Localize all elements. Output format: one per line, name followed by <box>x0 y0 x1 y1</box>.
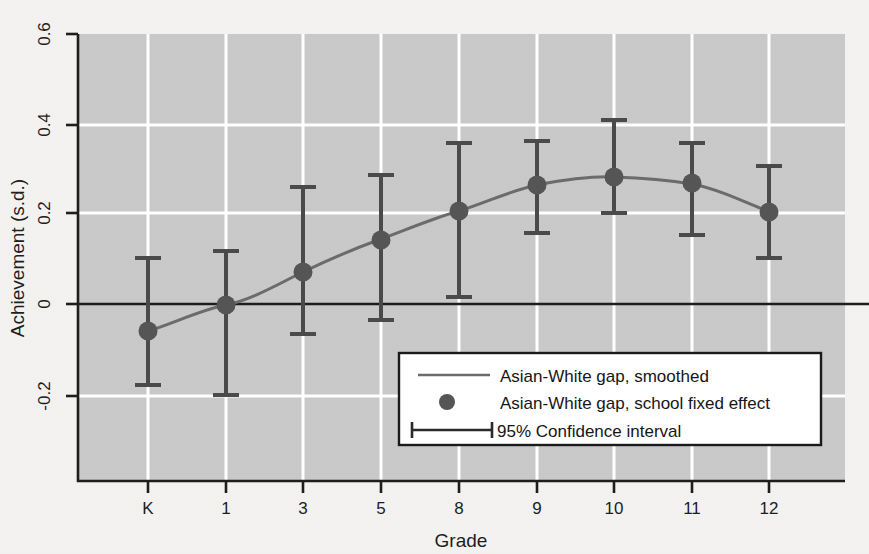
data-point <box>528 176 547 195</box>
data-point <box>139 322 158 341</box>
legend-item-label: 95% Confidence interval <box>497 422 681 441</box>
x-tick-label: 3 <box>298 499 307 518</box>
x-axis-ticks <box>148 481 769 493</box>
x-tick-label: 1 <box>221 499 230 518</box>
data-point <box>760 203 779 222</box>
x-tick-label: 10 <box>605 499 624 518</box>
x-tick-label: 9 <box>532 499 541 518</box>
data-point <box>605 168 624 187</box>
y-tick-label: 0.4 <box>35 113 54 137</box>
data-point <box>450 202 469 221</box>
data-point <box>217 296 236 315</box>
x-tick-label: K <box>142 499 154 518</box>
x-tick-label: 12 <box>760 499 779 518</box>
y-tick-label: -0.2 <box>35 381 54 410</box>
x-tick-label: 11 <box>683 499 701 518</box>
y-tick-labels: 0.6 0.4 0.2 0 -0.2 <box>35 22 54 410</box>
legend-item-label: Asian-White gap, school fixed effect <box>500 394 770 413</box>
x-tick-labels: K 1 3 5 8 9 10 11 12 <box>142 499 778 518</box>
achievement-gap-chart: 0.6 0.4 0.2 0 -0.2 K 1 3 5 8 9 10 11 12 … <box>0 0 869 554</box>
data-point <box>683 174 702 193</box>
legend-item-label: Asian-White gap, smoothed <box>500 367 709 386</box>
data-point <box>294 263 313 282</box>
figure-page: 0.6 0.4 0.2 0 -0.2 K 1 3 5 8 9 10 11 12 … <box>0 0 869 554</box>
chart-legend: Asian-White gap, smoothed Asian-White ga… <box>399 353 821 445</box>
y-axis-ticks <box>66 34 78 396</box>
legend-dot-glyph <box>439 394 455 410</box>
y-axis-title: Achievement (s.d.) <box>7 179 28 337</box>
y-tick-label: 0 <box>35 299 54 308</box>
x-tick-label: 8 <box>454 499 463 518</box>
x-axis-title: Grade <box>435 530 488 551</box>
data-point <box>372 231 391 250</box>
y-tick-label: 0.6 <box>35 22 54 46</box>
x-tick-label: 5 <box>376 499 385 518</box>
y-tick-label: 0.2 <box>35 201 54 225</box>
